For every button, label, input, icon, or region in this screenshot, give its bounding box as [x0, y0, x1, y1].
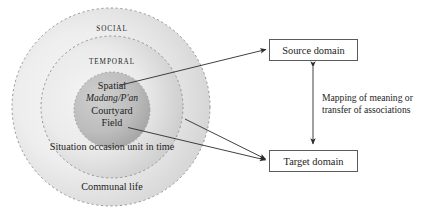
- ring-note-social: Communal life: [42, 181, 182, 192]
- core-line-spatial: Spatial: [62, 80, 162, 92]
- core-line-courtyard: Courtyard: [62, 105, 162, 117]
- ring-label-social: SOCIAL: [62, 25, 162, 33]
- source-domain-box: Source domain: [269, 39, 358, 61]
- core-line-madang-pan: Madang/P'an: [62, 92, 162, 104]
- core-text-block: Spatial Madang/P'an Courtyard Field: [62, 80, 162, 130]
- ring-label-temporal: TEMPORAL: [62, 58, 162, 66]
- mapping-note-label: Mapping of meaning or transfer of associ…: [322, 92, 440, 116]
- diagram-canvas: SOCIAL TEMPORAL Spatial Madang/P'an Cour…: [0, 0, 441, 215]
- target-domain-box: Target domain: [269, 150, 358, 172]
- ring-note-temporal: Situation occasion unit in time: [42, 141, 182, 154]
- core-line-field: Field: [62, 117, 162, 129]
